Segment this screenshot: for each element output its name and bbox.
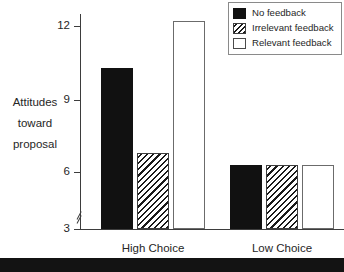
legend: No feedback Irrelevant feedback Relevant… xyxy=(228,2,342,55)
legend-item-irrelevant-feedback[interactable]: Irrelevant feedback xyxy=(233,21,337,35)
legend-label-relevant-feedback: Relevant feedback xyxy=(252,38,331,48)
y-tick-label-12: 12 xyxy=(30,20,70,32)
legend-label-irrelevant-feedback: Irrelevant feedback xyxy=(252,23,334,33)
x-axis-group-label-low-choice: Low Choice xyxy=(227,243,337,255)
legend-swatch-open-icon xyxy=(233,38,246,49)
bar xyxy=(101,68,133,229)
legend-swatch-solid-icon xyxy=(233,8,246,19)
y-tick-label-6: 6 xyxy=(30,166,70,178)
bar xyxy=(302,165,334,229)
y-axis-label-line-2: toward xyxy=(2,113,68,134)
bar xyxy=(137,153,169,229)
bar xyxy=(266,165,298,229)
x-axis-group-label-high-choice: High Choice xyxy=(98,243,208,255)
legend-item-no-feedback[interactable]: No feedback xyxy=(233,6,337,20)
bar xyxy=(173,21,205,229)
cropped-caption-band xyxy=(0,258,344,272)
bar-chart-figure: Attitudes toward proposal 36912 High Cho… xyxy=(0,0,344,272)
legend-swatch-hatched-icon xyxy=(233,23,246,34)
y-tick-label-3: 3 xyxy=(30,223,70,235)
bar xyxy=(230,165,262,229)
legend-label-no-feedback: No feedback xyxy=(252,8,306,18)
y-axis-label-line-3: proposal xyxy=(2,134,68,155)
legend-item-relevant-feedback[interactable]: Relevant feedback xyxy=(233,36,337,50)
y-tick-label-9: 9 xyxy=(30,94,70,106)
